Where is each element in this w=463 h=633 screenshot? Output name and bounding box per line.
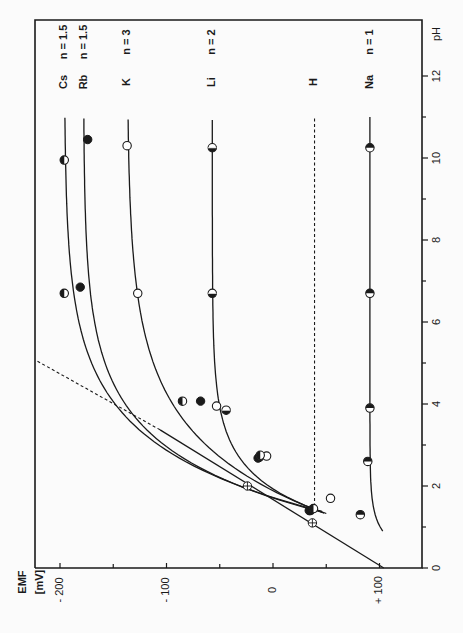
curve-cs (65, 118, 322, 512)
axis-and-series-labels: 024681012pH- 200- 1000+ 100EMF[mV]Csn = … (16, 25, 442, 604)
series-label-h: H (307, 78, 319, 86)
emf-vs-ph-chart: 024681012pH- 200- 1000+ 100EMF[mV]Csn = … (0, 0, 463, 633)
marker-half-filled-bottom (309, 504, 317, 512)
n-label-k: n = 3 (120, 29, 132, 54)
series-label-rb: Rb (77, 74, 89, 89)
marker-crossed-circle (308, 519, 316, 527)
series-label-na: Na (363, 74, 375, 89)
marker-half-filled-top (366, 404, 374, 412)
ph-tick-label: 12 (430, 70, 442, 82)
marker-crossed-circle (243, 482, 251, 490)
data-markers (60, 135, 374, 527)
marker-open (326, 494, 334, 502)
series-label-k: K (120, 78, 132, 86)
n-label-li: n = 2 (205, 29, 217, 54)
curve-na (370, 117, 383, 531)
marker-open (134, 289, 142, 297)
n-label-na: n = 1 (363, 29, 375, 54)
emf-tick-label: + 100 (372, 576, 384, 604)
emf-axis-label: EMF (16, 570, 28, 594)
marker-half-filled-top (356, 511, 364, 519)
marker-half-filled-top (366, 144, 374, 152)
nernst-line-solid (160, 430, 384, 568)
curve-rb (84, 119, 322, 513)
filled-circle-icon (196, 397, 204, 405)
ph-tick-label: 8 (430, 237, 442, 243)
ph-axis-label: pH (430, 27, 442, 41)
open-circle-icon (212, 402, 220, 410)
ph-tick-label: 4 (430, 401, 442, 407)
ph-tick-label: 10 (430, 152, 442, 164)
marker-open (212, 402, 220, 410)
ph-tick-label: 6 (430, 319, 442, 325)
filled-circle-icon (83, 135, 91, 143)
marker-half-filled-bottom (256, 451, 264, 459)
marker-half-filled-top (366, 289, 374, 297)
open-circle-icon (326, 494, 334, 502)
emf-tick-label: - 200 (53, 577, 65, 602)
ph-tick-label: 2 (430, 483, 442, 489)
marker-half-filled-top (364, 457, 372, 465)
n-label-cs: n = 1.5 (57, 25, 69, 60)
marker-filled (196, 397, 204, 405)
emf-tick-label: - 100 (159, 577, 171, 602)
emf-tick-label: 0 (266, 587, 278, 593)
marker-half-filled-center (208, 289, 216, 297)
ph-tick-label: 0 (430, 565, 442, 571)
series-label-li: Li (205, 77, 217, 87)
series-label-cs: Cs (57, 75, 69, 89)
filled-circle-icon (76, 283, 84, 291)
curve-k (128, 120, 324, 514)
marker-filled (83, 135, 91, 143)
plot-border (35, 20, 422, 568)
emf-axis-unit: [mV] (33, 569, 45, 594)
marker-half-filled-center (222, 406, 230, 414)
marker-half-filled-bottom (60, 156, 68, 164)
open-circle-icon (123, 142, 131, 150)
n-label-rb: n = 1.5 (77, 25, 89, 60)
plot-frame (35, 20, 422, 568)
nernst-line-dashed (36, 360, 161, 430)
marker-half-filled-bottom (60, 289, 68, 297)
marker-half-filled-bottom (178, 397, 186, 405)
marker-filled (76, 283, 84, 291)
open-circle-icon (134, 289, 142, 297)
marker-open (123, 142, 131, 150)
marker-half-filled-center (208, 144, 216, 152)
